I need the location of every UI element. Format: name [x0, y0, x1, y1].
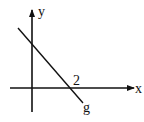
- coordinate-diagram: y x 2 g: [0, 0, 144, 122]
- line-g: [18, 28, 83, 103]
- y-axis-label: y: [38, 4, 45, 19]
- x-axis-label: x: [135, 81, 142, 96]
- x-intercept-label: 2: [73, 73, 80, 88]
- line-g-label: g: [83, 100, 90, 115]
